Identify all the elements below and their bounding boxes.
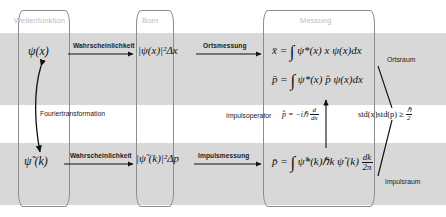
derivative-fraction: d dx [310,107,319,123]
derivative-denominator: dx [310,115,319,122]
hbar-over-two-fraction: ℏ 2 [406,107,412,123]
arrow-label-position-measurement: Ortsmessung [203,42,247,49]
born-rule-momentum: |ψ̃ (k)|²Δp [136,152,179,164]
column-box-wellenfunktion [18,10,70,207]
quantum-mechanics-diagram: Wellenfunktion Born Messung ψ(x) |ψ(x)|²… [0,0,446,217]
column-box-born [136,10,174,207]
momentum-operator-formula: p̂ = −iℏ d dx [282,107,319,123]
wavefunction-position: ψ(x) [28,44,49,59]
column-header-wellenfunktion: Wellenfunktion [14,16,65,25]
expectation-position-formula: x̄ = ∫ ψ*(x) x ψ(x)dx [272,42,362,62]
integral-icon: ∫ [290,153,295,172]
momentum-operator-lhs: p̂ = −iℏ [282,110,308,119]
arrow-label-probability-bottom: Wahrscheinlichkeit [70,152,132,159]
expectation-position-rhs: ψ*(x) x ψ(x)dx [297,44,361,56]
arrow-label-momentum-measurement: Impulsmessung [198,152,250,159]
measure-fraction: dk 2π [362,153,373,173]
arrow-label-probability-top: Wahrscheinlichkeit [73,42,135,49]
measure-denominator: 2π [362,163,373,172]
operator-name-label: Impulsoperator [226,112,271,119]
label-impulsraum: Impulsraum [385,178,421,185]
column-header-born: Born [142,16,158,25]
expectation-momentum-lhs: p̄ = [272,73,288,85]
expectation-momentum-bottom-lhs: p̄ = [272,155,288,167]
integral-icon: ∫ [290,71,295,90]
expectation-momentum-position-basis-formula: p̄ = ∫ ψ*(x) p̂ ψ(x)dx [272,71,363,91]
expectation-momentum-bottom-rhs: ψ̃*(k)ℏk ψ̃ (k) [298,155,359,167]
expectation-momentum-momentum-basis-formula: p̄ = ∫ ψ̃*(k)ℏk ψ̃ (k) dk 2π [272,153,373,173]
uncertainty-expression: std(x)std(p) ≥ [358,110,404,119]
expectation-position-lhs: x̄ = [272,44,287,56]
column-header-messung: Messung [300,16,331,25]
integral-icon: ∫ [290,42,295,61]
expectation-momentum-rhs: ψ*(x) p̂ ψ(x)dx [298,73,363,85]
label-ortsraum: Ortsraum [387,56,415,63]
wavefunction-momentum: ψ̃ (k) [24,154,48,169]
uncertainty-denominator: 2 [406,115,412,122]
uncertainty-relation-formula: std(x)std(p) ≥ ℏ 2 [358,107,412,123]
born-rule-position: |ψ(x)|²Δx [138,44,178,56]
arrow-label-fourier-transformation: Fouriertransformation [40,110,105,117]
